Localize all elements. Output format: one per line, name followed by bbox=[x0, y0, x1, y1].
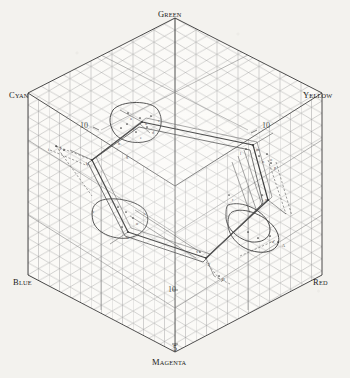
point-label-v: v bbox=[92, 210, 94, 214]
corner-label-magenta-head: M bbox=[152, 357, 160, 367]
isometric-cube-plot bbox=[0, 0, 350, 378]
point-label-z: z bbox=[272, 240, 274, 244]
corner-label-red: RED bbox=[313, 272, 328, 288]
tick-label-upper-left: 10 bbox=[80, 122, 88, 130]
corner-label-yellow: YELLOW bbox=[303, 85, 332, 101]
point-label-c: c bbox=[158, 119, 160, 123]
corner-label-green-rest: REEN bbox=[164, 11, 181, 18]
point-label-a: a bbox=[130, 117, 132, 121]
point-label-r: r bbox=[232, 198, 233, 202]
tick-label-lower: 10 bbox=[168, 286, 176, 294]
corner-label-blue: BLUE bbox=[13, 272, 32, 288]
point-label-e: e bbox=[140, 136, 142, 140]
point-label-y: y bbox=[208, 262, 210, 266]
corner-label-cyan-rest: YAN bbox=[15, 92, 29, 99]
corner-label-cyan: CYAN bbox=[9, 85, 28, 101]
point-label-i: i bbox=[48, 148, 49, 152]
point-label-h: h bbox=[118, 142, 120, 146]
tick-label-magenta: 5 bbox=[173, 345, 177, 353]
point-label-o: o bbox=[270, 158, 272, 162]
point-label-w: w bbox=[126, 236, 129, 240]
point-label-g: g bbox=[126, 155, 128, 159]
corner-label-blue-rest: LUE bbox=[19, 279, 32, 286]
point-label-s: s bbox=[144, 212, 146, 216]
point-label-l: l bbox=[240, 152, 241, 156]
color-cube-figure: GREEN CYAN YELLOW BLUE RED MAGENTA 10 10… bbox=[0, 0, 350, 378]
point-label-q: q bbox=[265, 198, 267, 202]
corner-label-magenta-rest: AGENTA bbox=[160, 359, 187, 366]
corner-label-green: GREEN bbox=[158, 4, 182, 20]
point-label-f: f bbox=[133, 128, 134, 132]
point-label-A: A bbox=[282, 244, 285, 248]
point-label-k: k bbox=[86, 162, 88, 166]
point-label-n: n bbox=[262, 160, 264, 164]
point-label-B: B bbox=[222, 278, 225, 282]
point-label-m: m bbox=[256, 148, 259, 152]
corner-label-yellow-rest: ELLOW bbox=[309, 92, 332, 99]
point-label-u: u bbox=[136, 222, 138, 226]
point-label-x: x bbox=[196, 250, 198, 254]
point-label-p: p bbox=[274, 166, 276, 170]
point-label-b: b bbox=[145, 122, 147, 126]
corner-label-magenta: MAGENTA bbox=[152, 352, 186, 368]
point-label-j: j bbox=[60, 146, 61, 150]
tick-label-upper-right: 10 bbox=[262, 122, 270, 130]
corner-label-red-rest: ED bbox=[319, 279, 328, 286]
point-label-d: d bbox=[152, 131, 154, 135]
